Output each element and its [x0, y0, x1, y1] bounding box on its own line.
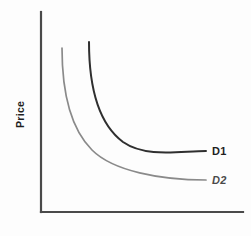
curve-label-d1: D1: [212, 145, 226, 157]
chart-canvas: Price D1 D2: [0, 0, 251, 236]
demand-curve-chart: Price D1 D2: [0, 0, 251, 236]
demand-curve-d2: [62, 48, 206, 180]
demand-curve-d1: [89, 42, 206, 153]
curve-label-d2: D2: [212, 174, 226, 186]
y-axis-label: Price: [14, 101, 26, 128]
